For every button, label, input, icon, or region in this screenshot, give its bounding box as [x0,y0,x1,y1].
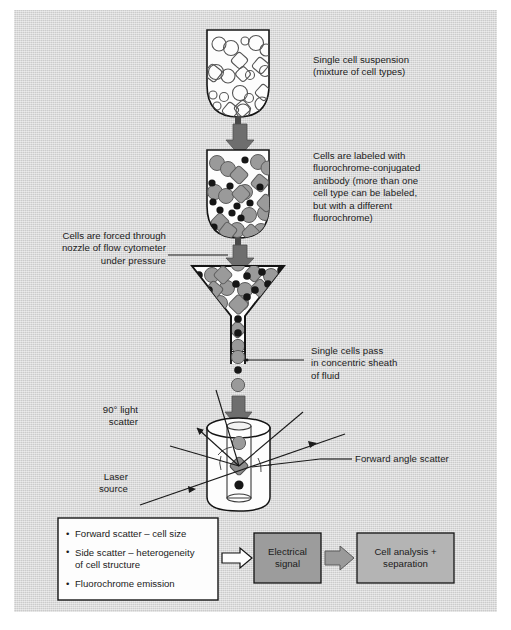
inner-tube-top [227,422,251,430]
label-90-light-scatter: 90° light scatter [70,404,138,429]
chamber-dot [234,480,243,489]
stream-cell [231,378,244,391]
label-concentric-sheath: Single cells pass in concentric sheath o… [311,345,397,382]
labeled-cells [208,155,276,243]
electrical-signal-label: Electrical signal [254,546,321,570]
flow-cytometry-figure: Single cell suspension (mixture of cell … [0,0,511,630]
nozzle-funnel [192,257,285,353]
cell-analysis-label: Cell analysis + separation [357,546,454,570]
bullet-forward-scatter: Forward scatter – cell size [66,528,242,540]
sheath-leader-dot [246,359,249,362]
label-single-cell-suspension: Single cell suspension (mixture of cell … [313,54,409,79]
label-laser-source: Laser source [62,471,128,496]
chamber-cell [232,436,245,449]
stream-dot [234,366,242,374]
bullet-side-scatter: Side scatter – heterogeneity of cell str… [66,547,242,572]
summary-bullet-list: Forward scatter – cell size Side scatter… [66,528,242,597]
flow-cell-chamber [207,418,272,511]
tube-stem [235,238,241,245]
stream-cell [231,350,244,363]
bullet-fluorochrome-emission: Fluorochrome emission [66,578,242,590]
filled-right-arrow [325,546,354,570]
label-cells-labeled: Cells are labeled with fluorochrome-conj… [313,150,420,224]
label-nozzle-pressure: Cells are forced through nozzle of flow … [16,230,166,267]
tube-labeled [207,150,276,245]
label-forward-angle-scatter: Forward angle scatter [355,453,449,465]
tube-unlabeled [203,30,273,125]
